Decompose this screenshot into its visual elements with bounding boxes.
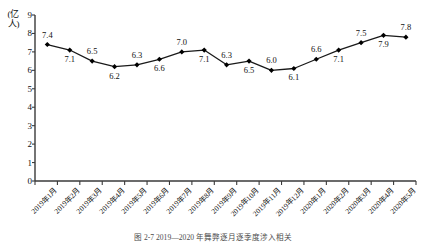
data-point-value-label: 6.6: [154, 64, 165, 73]
data-point-value-label: 7.1: [64, 55, 75, 64]
data-point-value-label: 6.5: [87, 47, 98, 56]
data-point-value-label: 7.8: [401, 23, 412, 32]
data-point-marker: [112, 64, 117, 69]
data-point-marker: [403, 35, 408, 40]
figure-caption: 图 2-7 2019—2020 年舞弊逐月逐季度涉入相关: [0, 233, 426, 242]
data-point-value-label: 6.3: [132, 51, 143, 60]
data-point-marker: [134, 62, 139, 67]
data-point-marker: [314, 57, 319, 62]
data-point-marker: [336, 47, 341, 52]
data-point-value-label: 6.2: [109, 72, 120, 81]
data-point-marker: [157, 57, 162, 62]
data-point-value-label: 7.1: [333, 55, 344, 64]
data-point-marker: [381, 33, 386, 38]
data-point-value-label: 6.0: [266, 56, 277, 65]
data-point-marker: [90, 59, 95, 64]
data-point-value-label: 6.5: [244, 66, 255, 75]
data-point-value-label: 6.6: [311, 45, 322, 54]
data-point-value-label: 7.9: [378, 40, 389, 49]
data-point-value-label: 7.5: [356, 29, 367, 38]
data-point-marker: [269, 68, 274, 73]
data-point-marker: [291, 66, 296, 71]
data-point-value-label: 7.0: [176, 38, 187, 47]
data-point-value-label: 7.1: [199, 55, 210, 64]
data-point-value-label: 6.3: [221, 51, 232, 60]
data-point-value-label: 6.1: [289, 73, 300, 82]
data-point-marker: [67, 47, 72, 52]
data-point-marker: [246, 59, 251, 64]
data-point-marker: [179, 49, 184, 54]
data-point-value-label: 7.4: [42, 31, 53, 40]
data-point-marker: [358, 40, 363, 45]
axis-lines: [35, 15, 416, 181]
data-point-marker: [45, 42, 50, 47]
